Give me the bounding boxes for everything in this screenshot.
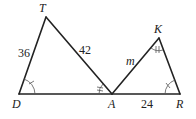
side-label-TA: 42 (79, 43, 91, 57)
side-AK (112, 38, 159, 94)
angle-mark-K (151, 46, 163, 53)
side-KR (159, 38, 180, 94)
vertex-label-R: R (175, 97, 184, 111)
vertex-label-A: A (107, 97, 116, 111)
vertex-label-T: T (39, 1, 47, 15)
side-label-TD: 36 (18, 46, 30, 60)
vertex-label-D: D (11, 97, 21, 111)
side-label-AR: 24 (141, 97, 153, 111)
angle-mark-D (24, 79, 35, 94)
similar-triangles-diagram: T D A K R 36 42 m 24 (0, 0, 196, 119)
angle-mark-R (165, 80, 175, 94)
side-label-AK: m (126, 54, 135, 68)
vertex-label-K: K (153, 22, 163, 36)
angle-mark-A (97, 84, 103, 94)
